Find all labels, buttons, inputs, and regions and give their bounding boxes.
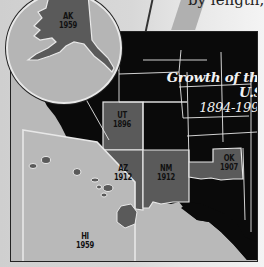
state-label-az: AZ 1912: [113, 164, 133, 182]
state-year: 1959: [75, 241, 95, 250]
state-year: 1912: [156, 173, 176, 182]
map-title-text: Growth of the U.S.: [167, 69, 258, 100]
state-label-ut: UT 1896: [112, 111, 132, 129]
state-abbr: HI: [75, 232, 95, 241]
map-years-range: 1894-1994: [153, 100, 258, 115]
state-year: 1959: [58, 21, 78, 30]
state-year: 1907: [219, 163, 239, 172]
state-abbr: AZ: [113, 164, 133, 173]
cut-off-body-text: by length,: [188, 0, 264, 9]
map-title: Growth of the U.S. 1894-1994: [153, 70, 258, 115]
state-abbr: NM: [156, 164, 176, 173]
state-label-hi: HI 1959: [75, 232, 95, 250]
state-abbr: UT: [112, 111, 132, 120]
state-alaska: [28, 0, 114, 72]
state-label-ak: AK 1959: [58, 12, 78, 30]
state-label-ok: OK 1907: [219, 154, 239, 172]
state-year: 1912: [113, 173, 133, 182]
state-label-nm: NM 1912: [156, 164, 176, 182]
state-abbr: AK: [58, 12, 78, 21]
state-abbr: OK: [219, 154, 239, 163]
state-year: 1896: [112, 120, 132, 129]
